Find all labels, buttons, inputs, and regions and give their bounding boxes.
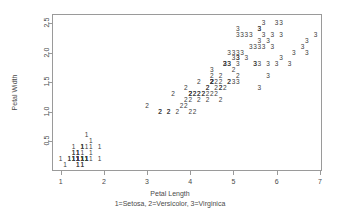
data-point: 3 <box>253 43 257 50</box>
data-point: 2 <box>219 97 223 104</box>
data-point: 3 <box>258 37 262 44</box>
data-point: 3 <box>275 20 279 27</box>
data-point: 1 <box>72 156 76 163</box>
data-point: 3 <box>305 37 309 44</box>
y-axis-tick-label: 2.0 <box>43 44 50 60</box>
data-point: 1 <box>85 156 89 163</box>
data-point: 1 <box>85 144 89 151</box>
data-point: 2 <box>145 103 149 110</box>
data-point: 2 <box>158 109 162 116</box>
data-point: 1 <box>80 156 84 163</box>
y-axis-title: Petal Width <box>8 0 22 185</box>
data-point: 2 <box>184 103 188 110</box>
data-point: 3 <box>266 37 270 44</box>
data-point: 2 <box>206 97 210 104</box>
data-point: 3 <box>258 85 262 92</box>
x-axis-tick <box>277 171 278 175</box>
data-point: 1 <box>76 156 80 163</box>
data-point: 3 <box>249 43 253 50</box>
x-axis-tick <box>147 171 148 175</box>
data-point: 2 <box>193 91 197 98</box>
data-point: 3 <box>292 49 296 56</box>
data-point: 3 <box>288 61 292 68</box>
x-axis-tick-label: 6 <box>275 178 279 185</box>
x-axis-tick <box>190 171 191 175</box>
data-point: 3 <box>232 79 236 86</box>
data-point: 2 <box>197 79 201 86</box>
scatter-points-layer: 1111111111111111111111111111111111111111… <box>52 14 322 171</box>
data-point: 3 <box>236 61 240 68</box>
data-point: 3 <box>232 55 236 62</box>
data-point: 1 <box>98 156 102 163</box>
data-point: 1 <box>63 162 67 169</box>
data-point: 2 <box>223 85 227 92</box>
data-point: 3 <box>223 61 227 68</box>
data-point: 2 <box>210 91 214 98</box>
data-point: 3 <box>275 61 279 68</box>
data-point: 3 <box>279 20 283 27</box>
x-axis-legend-caption: 1=Setosa, 2=Versicolor, 3=Virginica <box>0 200 340 207</box>
data-point: 3 <box>262 43 266 50</box>
data-point: 3 <box>210 67 214 74</box>
data-point: 3 <box>314 31 318 38</box>
data-point: 3 <box>305 49 309 56</box>
data-point: 2 <box>171 91 175 98</box>
data-point: 3 <box>245 31 249 38</box>
data-point: 2 <box>210 79 214 86</box>
data-point: 3 <box>240 31 244 38</box>
data-point: 3 <box>279 55 283 62</box>
data-point: 1 <box>98 144 102 151</box>
data-point: 3 <box>271 43 275 50</box>
data-point: 2 <box>167 109 171 116</box>
data-point: 1 <box>59 156 63 163</box>
data-point: 3 <box>227 49 231 56</box>
data-point: 3 <box>253 61 257 68</box>
data-point: 3 <box>266 73 270 80</box>
data-point: 2 <box>214 91 218 98</box>
data-point: 2 <box>184 85 188 92</box>
data-point: 3 <box>227 61 231 68</box>
data-point: 2 <box>210 73 214 80</box>
x-axis-tick-label: 7 <box>318 178 322 185</box>
data-point: 3 <box>258 61 262 68</box>
data-point: 3 <box>258 26 262 33</box>
data-point: 3 <box>245 55 249 62</box>
data-point: 1 <box>89 156 93 163</box>
data-point: 2 <box>201 91 205 98</box>
data-point: 1 <box>76 162 80 169</box>
y-axis-title-text: Petal Width <box>12 75 19 111</box>
y-axis-tick-label: 0.5 <box>43 133 50 149</box>
data-point: 3 <box>262 20 266 27</box>
x-axis-tick-label: 1 <box>59 178 63 185</box>
y-axis-tick-label: 1.5 <box>43 74 50 90</box>
data-point: 1 <box>67 156 71 163</box>
x-axis-tick <box>61 171 62 175</box>
data-point: 2 <box>214 85 218 92</box>
data-point: 2 <box>197 91 201 98</box>
data-point: 2 <box>232 67 236 74</box>
x-axis-tick-label: 3 <box>145 178 149 185</box>
data-point: 2 <box>219 85 223 92</box>
x-axis-tick <box>233 171 234 175</box>
data-point: 3 <box>249 31 253 38</box>
y-axis-tick-label: 1.0 <box>43 103 50 119</box>
x-axis-tick-label: 4 <box>188 178 192 185</box>
data-point: 3 <box>236 79 240 86</box>
x-axis-title: Petal Length <box>0 190 340 197</box>
x-axis-tick-label: 5 <box>231 178 235 185</box>
data-point: 3 <box>301 43 305 50</box>
chart-screenshot: Petal Width 0.51.01.52.02.5 111111111111… <box>0 0 340 219</box>
data-point: 1 <box>85 132 89 139</box>
data-point: 1 <box>80 144 84 151</box>
data-point: 2 <box>175 109 179 116</box>
data-point: 1 <box>80 162 84 169</box>
data-point: 2 <box>180 103 184 110</box>
data-point: 3 <box>240 49 244 56</box>
data-point: 3 <box>279 31 283 38</box>
data-point: 3 <box>258 43 262 50</box>
data-point: 2 <box>197 97 201 104</box>
x-axis-tick-label: 2 <box>102 178 106 185</box>
data-point: 2 <box>219 79 223 86</box>
x-axis-tick <box>104 171 105 175</box>
data-point: 3 <box>262 31 266 38</box>
